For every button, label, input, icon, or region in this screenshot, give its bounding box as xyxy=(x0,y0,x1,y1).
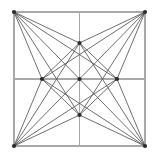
node-corner-bottom-right xyxy=(143,144,147,148)
node-corner-bottom-left xyxy=(12,144,16,148)
node-corner-top-right xyxy=(143,10,147,14)
node-midpoint-top xyxy=(77,41,81,45)
node-midpoint-right xyxy=(115,77,119,81)
node-center xyxy=(77,77,81,81)
node-corner-top-left xyxy=(12,10,16,14)
node-midpoint-left xyxy=(40,77,44,81)
geometric-figure-canvas xyxy=(0,0,157,158)
node-midpoint-bottom xyxy=(77,113,81,117)
